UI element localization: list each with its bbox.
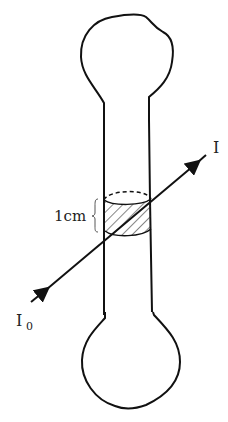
label-incident-intensity: I: [16, 311, 22, 330]
light-beam: [31, 155, 206, 302]
brace: [92, 199, 98, 232]
dashed-top-ellipse: [104, 192, 151, 200]
label-incident-subscript: 0: [26, 320, 33, 333]
bottom-bulb: [82, 312, 180, 409]
label-path-length: 1cm: [54, 207, 86, 225]
top-bulb: [81, 14, 173, 315]
sample-region: [104, 192, 151, 236]
absorption-diagram: I 1cm I 0: [0, 0, 228, 422]
label-transmitted-intensity: I: [213, 138, 219, 157]
